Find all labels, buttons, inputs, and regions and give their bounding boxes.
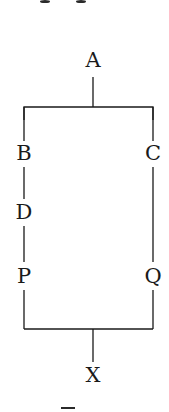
node-x: X [81,363,105,387]
node-c: C [141,141,165,165]
diagram-canvas: A B C D P Q X [0,0,169,412]
node-d: D [12,200,36,224]
node-b: B [12,141,36,165]
node-a: A [81,48,105,72]
node-p: P [12,264,36,288]
node-q: Q [141,264,165,288]
edge-top-bracket [24,107,153,120]
